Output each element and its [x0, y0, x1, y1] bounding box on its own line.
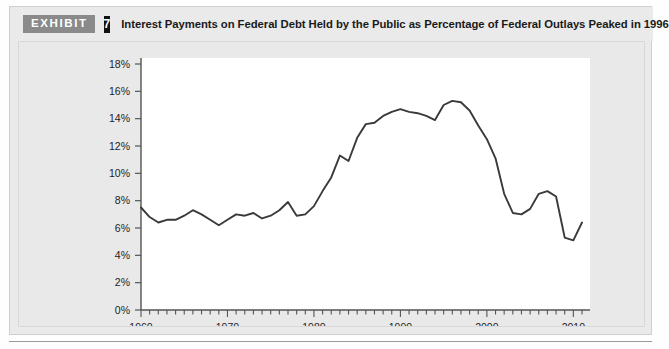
chart-container: 0%2%4%6%8%10%12%14%16%18%196019701980199… [18, 41, 645, 327]
line-chart: 0%2%4%6%8%10%12%14%16%18%196019701980199… [19, 42, 644, 326]
exhibit-title: Interest Payments on Federal Debt Held b… [121, 18, 669, 30]
y-tick-label: 12% [109, 140, 130, 152]
x-tick-label: 1990 [389, 321, 413, 326]
exhibit-header: EXHIBIT 7 Interest Payments on Federal D… [10, 7, 653, 41]
y-tick-label: 6% [115, 222, 130, 234]
y-tick-label: 4% [115, 249, 130, 261]
bottom-divider [9, 341, 652, 342]
plot-background [141, 58, 590, 310]
y-tick-label: 0% [115, 304, 130, 316]
exhibit-panel: EXHIBIT 7 Interest Payments on Federal D… [9, 6, 652, 335]
y-tick-label: 18% [109, 58, 130, 70]
x-tick-label: 1980 [302, 321, 326, 326]
y-tick-label: 2% [115, 276, 130, 288]
y-tick-label: 16% [109, 85, 130, 97]
exhibit-number-badge: 7 [104, 16, 111, 33]
x-tick-label: 2000 [475, 321, 499, 326]
y-tick-label: 8% [115, 194, 130, 206]
x-tick-label: 1960 [129, 321, 153, 326]
y-tick-label: 10% [109, 167, 130, 179]
y-tick-label: 14% [109, 112, 130, 124]
x-tick-label: 2010 [562, 321, 586, 326]
exhibit-badge: EXHIBIT [23, 15, 95, 33]
x-tick-label: 1970 [216, 321, 240, 326]
